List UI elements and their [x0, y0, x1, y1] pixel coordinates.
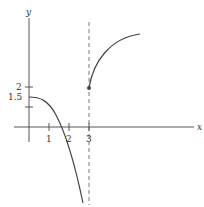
x-tick-label-1: 1 [46, 134, 52, 144]
x-tick-label-2: 2 [66, 134, 72, 144]
y-tick-label-1-5: 1.5 [8, 92, 23, 102]
function-graph: y x 1 2 3 2 1.5 [0, 0, 204, 207]
x-axis-label: x [197, 122, 202, 132]
x-tick-label-3: 3 [86, 134, 92, 144]
left-branch-curve [29, 97, 83, 203]
closed-point [87, 86, 91, 90]
y-axis-label: y [25, 7, 32, 17]
right-branch-curve [89, 34, 140, 88]
y-tick-label-2: 2 [16, 82, 22, 92]
